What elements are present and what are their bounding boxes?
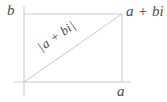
point-label: a + bi [126,4,164,19]
real-axis-label: a [117,84,125,99]
complex-number-diagram: b a a + bi |a + bi| [0,0,167,102]
imaginary-axis-label: b [7,3,15,18]
